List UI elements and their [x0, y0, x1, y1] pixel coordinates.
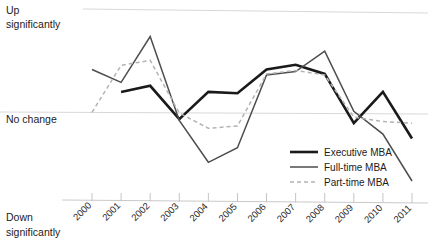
y-label-down-line1: Down	[6, 211, 33, 223]
gridline-up-significantly	[83, 9, 428, 13]
x-axis-tick-label: 2002	[129, 200, 152, 223]
gridlines	[0, 9, 428, 203]
legend-label: Full-time MBA	[324, 162, 387, 173]
x-axis-tick-label: 2010	[362, 202, 385, 225]
legend-label: Executive MBA	[324, 147, 392, 158]
y-axis-labels: Up significantly No change Down signific…	[6, 4, 61, 238]
x-axis-tick-labels: 2000200120022003200420052006200720082009…	[71, 200, 414, 225]
x-axis-tick-label: 2006	[245, 201, 268, 224]
series-line-part-time-mba	[92, 60, 412, 128]
x-axis-tick-label: 2011	[391, 202, 413, 224]
x-axis-tick-label: 2007	[274, 201, 297, 224]
x-axis-tick-label: 2009	[333, 202, 356, 225]
legend: Executive MBAFull-time MBAPart-time MBA	[290, 147, 392, 188]
x-axis-tick-label: 2000	[71, 200, 94, 223]
x-axis-tick-label: 2008	[303, 202, 326, 225]
series-line-full-time-mba	[92, 37, 412, 182]
y-label-no-change: No change	[6, 113, 57, 125]
chart-svg: Up significantly No change Down signific…	[0, 0, 428, 245]
x-axis-tick-label: 2003	[158, 200, 181, 223]
x-axis-tick-label: 2004	[187, 201, 210, 224]
x-axis-tick-label: 2005	[216, 201, 239, 224]
y-label-down-line2: significantly	[6, 226, 61, 238]
y-label-up-line2: significantly	[6, 18, 61, 30]
series-group	[92, 37, 412, 182]
line-chart: Up significantly No change Down signific…	[0, 0, 428, 245]
y-label-up-line1: Up	[6, 4, 20, 16]
legend-label: Part-time MBA	[324, 177, 389, 188]
x-axis-tick-label: 2001	[100, 200, 123, 223]
